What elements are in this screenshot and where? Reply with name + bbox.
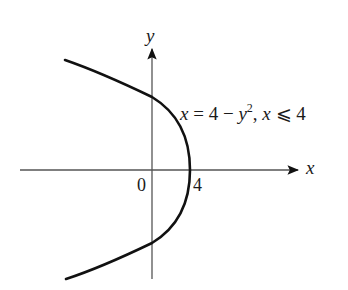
y-axis-label: y bbox=[146, 26, 154, 45]
origin-label: 0 bbox=[137, 176, 146, 194]
parabola-figure: y x 0 4 x = 4 − y2, x ⩽ 4 bbox=[0, 0, 348, 290]
x-tick-4-label: 4 bbox=[193, 176, 202, 194]
equation-eq: = 4 − bbox=[188, 103, 238, 124]
equation-label: x = 4 − y2, x ⩽ 4 bbox=[180, 102, 306, 123]
equation-cond-var: x bbox=[262, 103, 270, 124]
axes-and-curve bbox=[0, 0, 348, 290]
equation-var: y bbox=[238, 103, 246, 124]
equation-cond: ⩽ 4 bbox=[271, 103, 306, 124]
equation-sep: , bbox=[253, 103, 263, 124]
x-axis-label: x bbox=[306, 158, 314, 177]
